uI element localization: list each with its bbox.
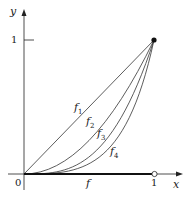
function-sequence-diagram: y 1 0 1 x f1 f2 f3 f4 f (0, 0, 190, 200)
origin-label: 0 (15, 178, 21, 188)
y-axis-arrow-icon (22, 9, 27, 16)
curve-f1 (24, 40, 154, 174)
y-tick-label: 1 (11, 35, 17, 45)
x-tick-label: 1 (151, 178, 157, 188)
x-axis-arrow-icon (176, 172, 183, 177)
label-f2: f2 (86, 116, 95, 130)
label-f4: f4 (110, 146, 119, 160)
y-axis-label: y (10, 6, 16, 17)
label-f1: f1 (74, 102, 83, 116)
x-axis-label: x (173, 179, 179, 190)
label-f3: f3 (97, 128, 106, 142)
closed-endpoint-dot (151, 37, 156, 42)
label-f-limit: f (86, 178, 90, 189)
open-endpoint-dot (152, 171, 157, 176)
plot-canvas (0, 0, 190, 200)
